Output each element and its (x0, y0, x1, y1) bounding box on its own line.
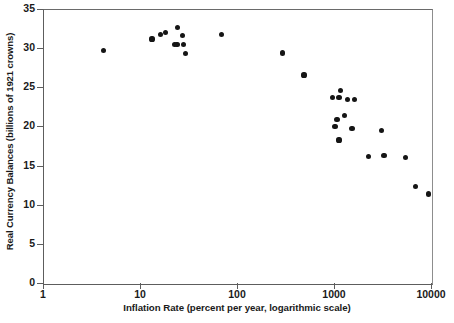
data-point (352, 97, 357, 102)
data-point (413, 184, 418, 189)
data-point (342, 113, 347, 118)
data-point (334, 117, 339, 122)
data-point (181, 42, 186, 47)
x-tick-label: 1000 (314, 288, 354, 300)
data-point (149, 36, 154, 41)
x-tick-label: 1 (23, 288, 63, 300)
x-tick-label: 10 (120, 288, 160, 300)
data-point (349, 126, 354, 131)
data-point (280, 50, 285, 55)
data-point (379, 128, 384, 133)
data-point (345, 97, 350, 102)
scatter-points-layer (44, 10, 432, 284)
data-point (330, 95, 335, 100)
data-point (175, 25, 180, 30)
x-tick-label: 100 (217, 288, 257, 300)
data-point (174, 42, 179, 47)
data-point (338, 88, 343, 93)
data-point (332, 124, 337, 129)
x-axis-title: Inflation Rate (percent per year, logari… (43, 302, 431, 313)
data-point (183, 51, 188, 56)
data-point (163, 30, 168, 35)
data-point (219, 32, 224, 37)
data-point (336, 95, 341, 100)
data-point (101, 48, 106, 53)
y-axis-title: Real Currency Balances (billions of 1921… (1, 0, 17, 283)
data-point (426, 191, 431, 196)
data-point (336, 137, 341, 142)
x-tick-label: 10000 (411, 288, 451, 300)
data-point (403, 155, 408, 160)
data-point (301, 72, 306, 77)
data-point (381, 153, 386, 158)
data-point (180, 33, 185, 38)
plot-area (43, 9, 433, 285)
chart-figure: Real Currency Balances (billions of 1921… (0, 0, 454, 323)
data-point (366, 154, 371, 159)
